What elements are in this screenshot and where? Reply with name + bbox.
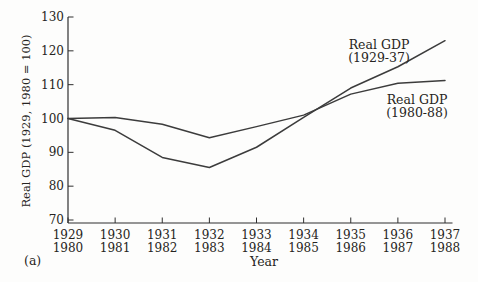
x-tick-label-row1: 1933 [241, 228, 272, 242]
x-tick-label-row2: 1981 [100, 241, 131, 255]
x-tick-label-row1: 1936 [383, 228, 414, 242]
y-tick-label: 70 [49, 213, 64, 227]
x-tick-label-row2: 1988 [430, 241, 461, 255]
y-tick-label: 80 [49, 179, 64, 193]
y-axis-title: Real GDP (1929, 1980 = 100) [19, 34, 33, 207]
x-axis-title: Year [249, 254, 278, 269]
series-label-1980-88: (1980-88) [386, 105, 448, 120]
y-tick-label: 90 [49, 145, 64, 159]
x-tick-label-row2: 1986 [335, 241, 366, 255]
x-tick-label-row1: 1931 [147, 228, 178, 242]
x-tick-label-row2: 1983 [194, 241, 225, 255]
x-tick-label-row2: 1985 [288, 241, 319, 255]
series-label-1929-37: (1929-37) [348, 50, 410, 65]
x-tick-label-row1: 1930 [100, 228, 131, 242]
x-tick-label-row2: 1987 [383, 241, 414, 255]
y-tick-label: 130 [41, 10, 64, 24]
y-tick-label: 110 [41, 78, 64, 92]
x-tick-label-row1: 1932 [194, 228, 225, 242]
x-tick-label-row2: 1984 [241, 241, 272, 255]
figure-page: 1301201101009080701929198019301981193119… [0, 0, 478, 282]
x-tick-label-row1: 1937 [430, 228, 461, 242]
x-tick-label-row2: 1982 [147, 241, 178, 255]
x-tick-label-row1: 1935 [335, 228, 366, 242]
y-tick-label: 120 [41, 44, 64, 58]
x-tick-label-row2: 1980 [53, 241, 84, 255]
real-gdp-line-chart: 1301201101009080701929198019301981193119… [0, 0, 478, 282]
y-tick-label: 100 [41, 112, 64, 126]
x-tick-label-row1: 1929 [53, 228, 84, 242]
x-tick-label-row1: 1934 [288, 228, 319, 242]
figure-label: (a) [24, 253, 41, 268]
